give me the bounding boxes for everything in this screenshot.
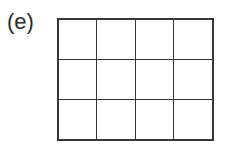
- grid-cell-r1-c1: [58, 19, 97, 59]
- grid-cell-r1-c3: [135, 19, 174, 59]
- grid-cell-r1-c2: [97, 19, 136, 59]
- grid-cell-r2-c2: [97, 59, 136, 99]
- grid-cell-r1-c4: [174, 19, 213, 59]
- figure-label: (e): [7, 9, 34, 35]
- grid-cell-r3-c2: [97, 100, 136, 140]
- grid-row: [58, 19, 213, 59]
- grid-row: [58, 100, 213, 140]
- grid-cell-r2-c4: [174, 59, 213, 99]
- grid-figure: [57, 18, 214, 141]
- grid-cell-r2-c3: [135, 59, 174, 99]
- grid-cell-r2-c1: [58, 59, 97, 99]
- cell-grid: [57, 18, 214, 141]
- grid-cell-r3-c1: [58, 100, 97, 140]
- grid-row: [58, 59, 213, 99]
- grid-body: [58, 19, 213, 140]
- grid-cell-r3-c3: [135, 100, 174, 140]
- grid-cell-r3-c4: [174, 100, 213, 140]
